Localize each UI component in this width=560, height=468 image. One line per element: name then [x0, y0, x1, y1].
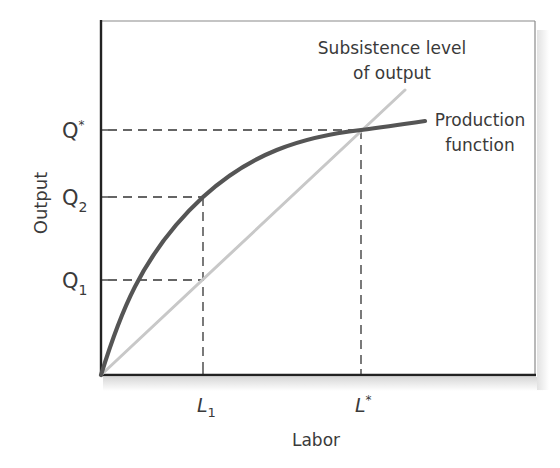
- label-q1: Q1: [62, 269, 87, 298]
- frame-shadow-right: [537, 30, 549, 390]
- chart-svg: Q* Q2 Q1 Output L1 L* Labor Subsistence …: [0, 0, 560, 468]
- frame-shadow-bottom: [103, 377, 543, 391]
- label-l1: L1: [197, 394, 216, 420]
- production-label-line2: function: [445, 135, 514, 155]
- x-axis-title: Labor: [292, 430, 340, 450]
- y-axis-title: Output: [30, 172, 51, 235]
- production-function-curve: [101, 121, 425, 375]
- label-l-star: L*: [355, 393, 372, 416]
- production-label-line1: Production: [435, 110, 525, 130]
- label-q2: Q2: [62, 186, 87, 215]
- label-q-star: Q*: [62, 118, 85, 143]
- subsistence-label-line1: Subsistence level: [318, 38, 466, 58]
- subsistence-label-line2: of output: [353, 63, 431, 83]
- subsistence-line: [101, 90, 405, 375]
